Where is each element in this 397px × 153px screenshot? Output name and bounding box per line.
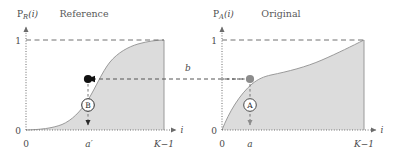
original-xtick-zero: 0 [219, 139, 225, 149]
original-ytick-zero: 0 [211, 126, 217, 136]
original-curve-fill [222, 40, 364, 130]
figure-container: B 1 0 0 a′ K−1 i PR(i) Reference b [0, 0, 397, 153]
reference-curve-fill [26, 40, 164, 130]
figure-svg: B 1 0 0 a′ K−1 i PR(i) Reference b [0, 0, 397, 153]
reference-xtick-kminus1: K−1 [153, 139, 174, 149]
original-panel-title: Original [261, 8, 300, 19]
reference-ytick-one: 1 [15, 36, 21, 46]
original-marker-badge-label: A [246, 101, 253, 110]
reference-xaxis-symbol: i [181, 125, 184, 135]
original-yaxis-label-arg: (i) [224, 9, 234, 19]
original-xtick-a: a [247, 139, 252, 149]
reference-marker-badge-label: B [85, 101, 91, 110]
original-ytick-one: 1 [211, 36, 217, 46]
panel-original: A 1 0 0 a K−1 i PA(i) Original [211, 8, 383, 149]
connector-label-b: b [185, 63, 191, 73]
reference-panel-title: Reference [59, 8, 109, 19]
reference-xtick-a-prime: a′ [85, 139, 92, 149]
reference-ytick-zero: 0 [15, 126, 21, 136]
reference-yaxis-label-arg: (i) [28, 9, 38, 19]
original-xtick-kminus1: K−1 [353, 139, 374, 149]
original-yaxis-label: PA(i) [213, 9, 234, 21]
reference-yaxis-label: PR(i) [17, 9, 39, 21]
original-xaxis-symbol: i [381, 125, 384, 135]
reference-xtick-zero: 0 [23, 139, 29, 149]
original-marker-dot [246, 75, 254, 83]
